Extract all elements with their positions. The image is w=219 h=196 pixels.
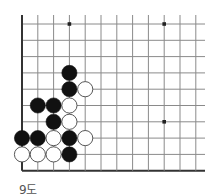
white-stone-icon — [14, 147, 29, 162]
white-stone-icon — [62, 114, 77, 129]
star-point-icon — [68, 22, 72, 26]
star-point-icon — [162, 120, 166, 124]
black-stone-icon — [30, 131, 45, 146]
white-stone-icon — [46, 131, 61, 146]
black-stone-icon — [30, 98, 45, 113]
black-stone-icon — [46, 114, 61, 129]
white-stone-icon — [78, 82, 93, 97]
white-stone-icon — [30, 147, 45, 162]
diagram-caption: 9도 — [19, 180, 37, 196]
black-stone-icon — [46, 98, 61, 113]
white-stone-icon — [46, 147, 61, 162]
black-stone-icon — [62, 82, 77, 97]
black-stone-icon — [14, 131, 29, 146]
board-grid — [22, 15, 205, 171]
black-stone-icon — [62, 147, 77, 162]
go-board-diagram — [0, 0, 219, 196]
black-stone-icon — [62, 131, 77, 146]
white-stone-icon — [78, 131, 93, 146]
star-point-icon — [162, 22, 166, 26]
white-stone-icon — [62, 98, 77, 113]
black-stone-icon — [62, 65, 77, 80]
